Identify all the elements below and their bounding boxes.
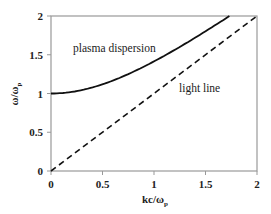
y-tick-1.5: 1.5 (29, 49, 43, 61)
x-tick-0: 0 (48, 178, 54, 190)
x-axis-label: kc/ωp (142, 193, 168, 208)
light-line-series (51, 16, 257, 171)
y-axis-label: ω/ωp (8, 82, 23, 105)
x-tick-1: 1 (151, 178, 157, 190)
annotation-plasma-dispersion: plasma dispersion (73, 42, 156, 55)
annotation-light-line: light line (179, 82, 220, 95)
y-tick-0.5: 0.5 (29, 126, 43, 138)
x-ticks (51, 171, 257, 175)
y-tick-0: 0 (38, 165, 44, 177)
x-tick-0.5: 0.5 (96, 178, 110, 190)
y-tick-2: 2 (38, 10, 44, 22)
dispersion-chart: 0 0.5 1 1.5 2 0 0.5 1 1.5 2 kc/ωp ω/ωp p… (0, 0, 271, 214)
x-tick-1.5: 1.5 (199, 178, 213, 190)
x-tick-2: 2 (254, 178, 260, 190)
y-tick-1: 1 (38, 88, 44, 100)
